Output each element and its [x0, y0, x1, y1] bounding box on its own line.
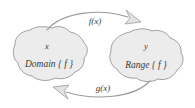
- range-set-label: Range { f }: [124, 60, 167, 70]
- domain-variable-label: x: [44, 41, 49, 51]
- range-blob-shape: [110, 29, 183, 82]
- domain-blob-shape: [13, 27, 87, 81]
- range-variable-label: y: [143, 41, 148, 51]
- forward-arrow-label: f(x): [89, 16, 102, 26]
- domain-set-label: Domain { f }: [24, 59, 73, 69]
- inverse-arrow-label: g(x): [96, 83, 111, 93]
- function-mapping-diagram: x Domain { f } y Range { f } f(x) g(x): [0, 0, 195, 108]
